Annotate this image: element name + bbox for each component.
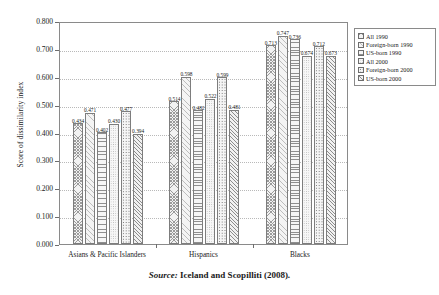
bar-asians-pacific-islanders-series-3[interactable]: 0.402: [97, 132, 107, 244]
bar-value-label: 0.394: [132, 128, 144, 134]
bar-blacks-series-4[interactable]: 0.674: [302, 56, 312, 244]
y-axis-tick-label: 0.200: [9, 185, 53, 193]
x-axis-category-label: Asians & Pacific Islanders: [59, 250, 155, 259]
bar-asians-pacific-islanders-series-5[interactable]: 0.477: [121, 111, 131, 244]
bar-value-label: 0.713: [265, 40, 277, 46]
bar-hispanics-series-5[interactable]: 0.599: [217, 77, 227, 244]
bar-asians-pacific-islanders-series-1[interactable]: 0.434: [73, 123, 83, 244]
legend-item-2[interactable]: Foreign-born 1990: [358, 40, 433, 48]
source-caption: Source: Iceland and Scopilliti (2008).: [0, 270, 439, 280]
legend-swatch-icon: [358, 33, 364, 39]
bar-value-label: 0.674: [301, 50, 313, 56]
plot-area: 0.4340.4710.4020.4300.4770.3940.5140.598…: [59, 22, 348, 245]
legend-item-label: Foreign-born 1990: [366, 41, 413, 48]
source-word: Source:: [149, 270, 178, 280]
y-axis-tick-label: 0.700: [9, 46, 53, 54]
y-axis-tick-label: 0.300: [9, 157, 53, 165]
legend-box: All 1990Foreign-born 1990US-born 1990All…: [354, 28, 436, 86]
bar-value-label: 0.747: [277, 30, 289, 36]
legend-item-label: All 1990: [366, 33, 388, 40]
y-axis-tick-label: 0.400: [9, 130, 53, 138]
bar-group-2: 0.5140.5980.4820.5220.5990.481: [156, 23, 252, 244]
legend-item-6[interactable]: US-born 2000: [358, 74, 433, 82]
y-axis-tick-mark: [55, 245, 59, 246]
legend-item-3[interactable]: US-born 1990: [358, 49, 433, 57]
legend-swatch-icon: [358, 50, 364, 56]
legend-swatch-icon: [358, 75, 364, 81]
legend-item-label: All 2000: [366, 58, 388, 65]
bar-blacks-series-6[interactable]: 0.673: [326, 56, 336, 244]
legend-item-label: US-born 1990: [366, 49, 401, 56]
y-axis-tick-label: 0.500: [9, 102, 53, 110]
bar-asians-pacific-islanders-series-4[interactable]: 0.430: [109, 124, 119, 244]
y-axis-tick-label: 0.000: [9, 241, 53, 249]
legend-item-label: US-born 2000: [366, 75, 401, 82]
legend-item-4[interactable]: All 2000: [358, 57, 433, 65]
bar-blacks-series-2[interactable]: 0.747: [278, 36, 288, 244]
legend-item-5[interactable]: Foreign-born 2000: [358, 66, 433, 74]
legend-swatch-icon: [358, 67, 364, 73]
bar-hispanics-series-1[interactable]: 0.514: [169, 101, 179, 244]
bar-value-label: 0.430: [108, 118, 120, 124]
bar-blacks-series-5[interactable]: 0.712: [314, 46, 324, 244]
bar-value-label: 0.477: [120, 106, 132, 112]
bar-hispanics-series-2[interactable]: 0.598: [181, 77, 191, 244]
y-axis-tick-label: 0.600: [9, 74, 53, 82]
bar-value-label: 0.481: [228, 104, 240, 110]
legend-item-1[interactable]: All 1990: [358, 32, 433, 40]
bar-value-label: 0.514: [168, 96, 180, 102]
figure-container: Score of dissimilarity index 0.0000.1000…: [0, 0, 439, 295]
bar-hispanics-series-3[interactable]: 0.482: [193, 110, 203, 244]
x-axis-tick-mark: [156, 244, 157, 248]
bar-value-label: 0.471: [84, 107, 96, 113]
y-axis-tick-label: 0.100: [9, 213, 53, 221]
bar-asians-pacific-islanders-series-2[interactable]: 0.471: [85, 113, 95, 244]
source-text: Iceland and Scopilliti (2008).: [180, 270, 290, 280]
bar-group-1: 0.4340.4710.4020.4300.4770.394: [60, 23, 156, 244]
bar-hispanics-series-6[interactable]: 0.481: [229, 110, 239, 244]
bar-value-label: 0.522: [204, 93, 216, 99]
bar-value-label: 0.673: [325, 50, 337, 56]
bar-value-label: 0.598: [180, 71, 192, 77]
bar-value-label: 0.402: [96, 127, 108, 133]
bar-value-label: 0.482: [192, 105, 204, 111]
bar-value-label: 0.434: [72, 118, 84, 124]
legend-swatch-icon: [358, 42, 364, 48]
legend-swatch-icon: [358, 58, 364, 64]
bar-blacks-series-1[interactable]: 0.713: [266, 45, 276, 244]
x-axis-category-label: Hispanics: [155, 250, 251, 259]
legend-item-label: Foreign-born 2000: [366, 66, 413, 73]
y-axis-tick-label: 0.800: [9, 18, 53, 26]
bar-value-label: 0.599: [216, 72, 228, 78]
x-axis-category-label: Blacks: [252, 250, 348, 259]
bar-asians-pacific-islanders-series-6[interactable]: 0.394: [133, 134, 143, 244]
bar-blacks-series-3[interactable]: 0.736: [290, 39, 300, 244]
bar-value-label: 0.712: [313, 41, 325, 47]
x-axis-tick-mark: [253, 244, 254, 248]
bar-value-label: 0.736: [289, 34, 301, 40]
bar-group-3: 0.7130.7470.7360.6740.7120.673: [253, 23, 349, 244]
bar-hispanics-series-4[interactable]: 0.522: [205, 99, 215, 245]
